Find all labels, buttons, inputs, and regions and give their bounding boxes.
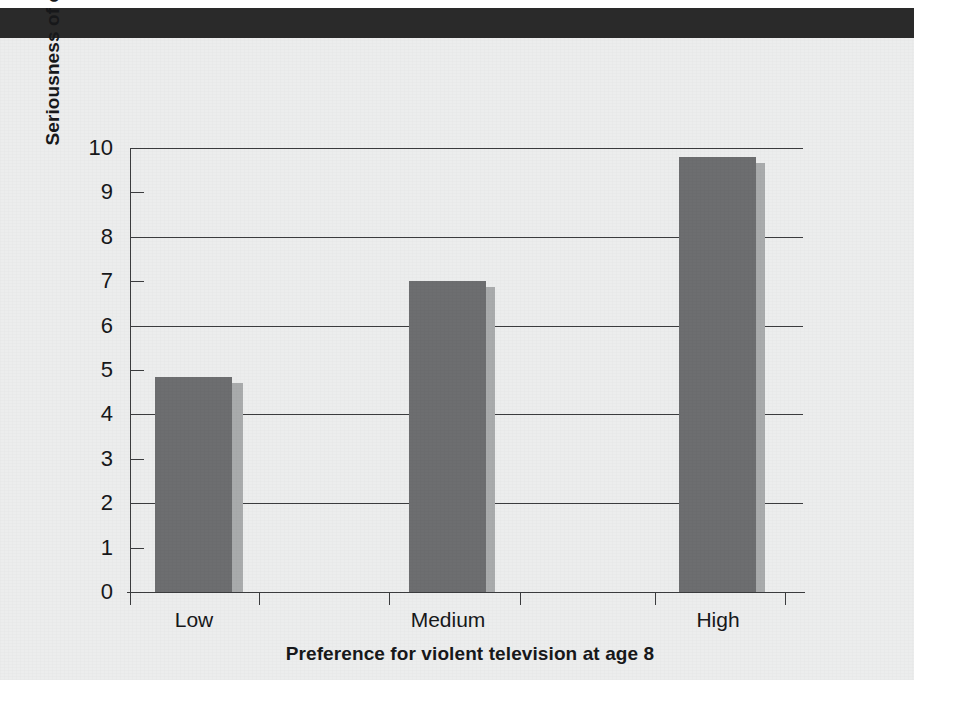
y-tick-label: 6 (101, 313, 113, 339)
y-minor-tick (130, 548, 144, 549)
bar-high[interactable] (679, 157, 756, 592)
bar-shadow (486, 287, 495, 592)
y-tick-label: 7 (101, 268, 113, 294)
y-axis-line (130, 148, 131, 592)
y-tick-label: 9 (101, 179, 113, 205)
y-minor-tick (130, 281, 144, 282)
y-axis-title: Seriousness of criminal arrests by age 3… (38, 0, 68, 178)
plot-area: 109876543210 LowMediumHigh (130, 148, 803, 592)
y-tick-label: 0 (101, 579, 113, 605)
y-tick-label: 5 (101, 357, 113, 383)
gridline (130, 148, 803, 149)
x-tick (389, 592, 390, 605)
page-header-band (0, 8, 914, 38)
y-tick-label: 3 (101, 446, 113, 472)
x-tick (130, 592, 131, 605)
bar-medium[interactable] (409, 281, 486, 592)
y-minor-tick (130, 370, 144, 371)
x-axis-title: Preference for violent television at age… (130, 643, 810, 665)
x-tick (259, 592, 260, 605)
x-tick-label-low: Low (175, 608, 214, 632)
y-tick-label: 2 (101, 490, 113, 516)
x-tick-label-medium: Medium (411, 608, 486, 632)
x-tick (655, 592, 656, 605)
x-tick (520, 592, 521, 605)
bar-shadow (232, 383, 243, 592)
figure-root: Seriousness of criminal arrests by age 3… (0, 0, 959, 712)
x-axis-line (127, 592, 805, 593)
y-tick-label: 1 (101, 535, 113, 561)
y-tick-label: 4 (101, 401, 113, 427)
y-tick-label: 8 (101, 224, 113, 250)
y-minor-tick (130, 459, 144, 460)
x-tick (785, 592, 786, 605)
chart-panel: Seriousness of criminal arrests by age 3… (0, 38, 914, 680)
bar-low[interactable] (155, 377, 232, 592)
x-tick-label-high: High (696, 608, 739, 632)
y-tick-label: 10 (89, 135, 113, 161)
bar-shadow (756, 163, 765, 592)
y-minor-tick (130, 192, 144, 193)
